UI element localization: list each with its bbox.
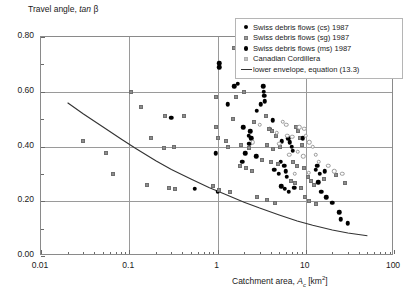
data-point (337, 210, 342, 215)
data-point (263, 99, 268, 104)
data-point (192, 187, 197, 192)
data-point (316, 180, 321, 185)
data-point (139, 105, 143, 109)
legend-item: Swiss debris flows (sg) 1987 (239, 33, 398, 44)
data-point (302, 126, 307, 131)
data-point (314, 152, 319, 157)
data-point (104, 151, 108, 155)
marker-glyph (244, 57, 248, 61)
legend-item: lower envelope, equation (13.3) (239, 64, 398, 75)
data-point (340, 172, 345, 177)
data-point (163, 114, 167, 118)
data-point (213, 151, 218, 156)
data-point (295, 150, 300, 155)
data-point (238, 164, 242, 168)
legend-marker-icon (239, 36, 253, 40)
data-point (214, 95, 218, 99)
data-point (211, 184, 215, 188)
data-point (255, 109, 260, 114)
data-point (292, 172, 297, 177)
data-point (254, 154, 259, 159)
data-point (265, 143, 269, 147)
data-point (270, 129, 274, 133)
data-point (182, 114, 186, 118)
data-point (302, 166, 306, 170)
marker-glyph (244, 46, 249, 51)
data-point (264, 114, 268, 118)
data-point (304, 133, 309, 138)
data-point (250, 140, 255, 145)
data-point (330, 200, 335, 205)
data-point (301, 154, 306, 159)
data-point (225, 102, 230, 107)
data-point (242, 90, 246, 94)
y-axis-tick-label: 0.40 (0, 140, 34, 150)
data-point (81, 139, 85, 143)
data-point (324, 195, 329, 200)
x-axis-tick-mark (394, 250, 395, 254)
data-point (306, 170, 311, 175)
legend-item: Swiss debris flows (ms) 1987 (239, 43, 398, 54)
y-axis-title: Travel angle, tan β (28, 4, 98, 14)
data-point (243, 151, 248, 156)
legend-item: Swiss debris flows (cs) 1987 (239, 22, 398, 33)
data-point (287, 152, 292, 157)
x-axis-tick-label: 1 (197, 260, 237, 270)
data-point (172, 145, 176, 149)
x-axis-tick-label: 0.01 (20, 260, 60, 270)
data-point (276, 162, 280, 166)
data-point (277, 142, 282, 147)
data-point (296, 129, 300, 133)
data-point (284, 122, 289, 127)
y-axis-tick-label: 0.20 (0, 194, 34, 204)
data-point (241, 125, 246, 130)
y-axis-tick-label: 0.60 (0, 85, 34, 95)
data-point (275, 131, 280, 136)
data-point (247, 146, 251, 150)
legend-label: Swiss debris flows (sg) 1987 (253, 33, 349, 42)
data-point (129, 90, 133, 94)
legend-label: Swiss debris flows (cs) 1987 (253, 23, 349, 32)
data-point (310, 144, 315, 149)
legend-marker-icon (239, 69, 253, 70)
data-point (295, 164, 299, 168)
y-axis-tick-label: 0.00 (0, 249, 34, 259)
y-axis-tick-mark (41, 256, 45, 257)
data-point (259, 102, 264, 107)
x-axis-tick-label: 10 (285, 260, 325, 270)
legend-label: Canadian Cordillera (253, 54, 320, 63)
data-point (244, 166, 248, 170)
data-point (326, 163, 331, 168)
marker-glyph (244, 25, 248, 29)
legend: Swiss debris flows (cs) 1987Swiss debris… (235, 18, 403, 79)
data-point (292, 185, 297, 190)
data-point (282, 163, 287, 168)
data-point (271, 147, 275, 151)
marker-glyph (241, 69, 252, 70)
data-point (260, 158, 264, 162)
data-point (290, 135, 295, 140)
data-point (231, 117, 235, 121)
legend-label: Swiss debris flows (ms) 1987 (253, 44, 351, 53)
data-point (234, 95, 238, 99)
data-point (265, 198, 269, 202)
data-point (262, 94, 267, 99)
legend-marker-icon (239, 57, 253, 61)
data-point (297, 125, 302, 130)
data-point (303, 195, 307, 199)
x-axis-tick-label: 100 (373, 260, 407, 270)
legend-item: Canadian Cordillera (239, 54, 398, 65)
data-point (261, 84, 266, 89)
x-axis-tick-label: 0.1 (108, 260, 148, 270)
data-point (314, 202, 318, 206)
x-axis-title: Catchment area, Ac [km2] (232, 275, 328, 288)
data-point (293, 181, 297, 185)
y-axis-tick-label: 0.80 (0, 30, 34, 40)
data-point (236, 81, 241, 86)
marker-glyph (244, 36, 248, 40)
data-point (323, 169, 328, 174)
data-point (334, 173, 338, 177)
data-point (250, 169, 254, 173)
data-point (257, 122, 262, 127)
data-point (283, 169, 288, 174)
